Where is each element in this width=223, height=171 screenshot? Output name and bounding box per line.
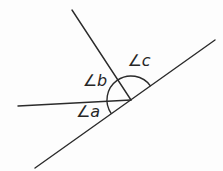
left-ray (18, 100, 131, 106)
angle-b-label: ∠b (83, 71, 108, 90)
angle-diagram: ∠a∠b∠c (0, 0, 223, 171)
angle-c-label: ∠c (127, 51, 150, 70)
angle-arc (107, 76, 151, 114)
angle-diagram-svg: ∠a∠b∠c (0, 0, 223, 171)
angle-a-label: ∠a (76, 102, 100, 121)
